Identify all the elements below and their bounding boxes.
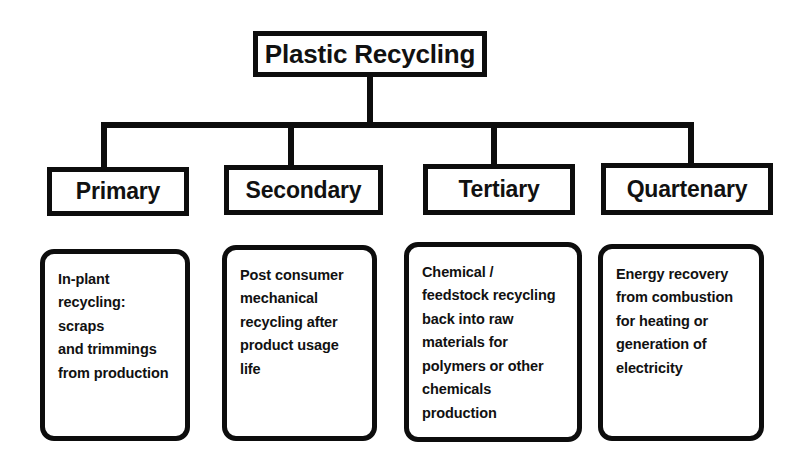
category-box-secondary: Secondary <box>224 165 383 215</box>
connector-drop-secondary <box>288 122 294 169</box>
description-box-secondary: Post consumer mechanical recycling after… <box>222 245 377 441</box>
description-box-tertiary: Chemical / feedstock recycling back into… <box>404 242 582 442</box>
description-text-tertiary: Chemical / feedstock recycling back into… <box>422 261 565 425</box>
category-box-quartenary: Quartenary <box>601 163 773 215</box>
description-box-quartenary: Energy recovery from combustion for heat… <box>598 244 764 441</box>
connector-drop-tertiary <box>491 122 497 169</box>
plastic-recycling-diagram: Plastic Recycling Primary Secondary Tert… <box>0 0 805 469</box>
category-label-secondary: Secondary <box>246 179 362 202</box>
category-box-primary: Primary <box>47 167 189 216</box>
connector-root-stem <box>367 77 373 125</box>
description-text-quartenary: Energy recovery from combustion for heat… <box>616 263 747 380</box>
connector-drop-quartenary <box>688 122 694 169</box>
description-box-primary: In-plant recycling: scraps and trimmings… <box>40 249 190 441</box>
category-box-tertiary: Tertiary <box>423 164 575 215</box>
category-label-primary: Primary <box>76 180 160 203</box>
category-label-quartenary: Quartenary <box>627 178 748 201</box>
description-text-primary: In-plant recycling: scraps and trimmings… <box>58 268 173 385</box>
description-text-secondary: Post consumer mechanical recycling after… <box>240 264 360 381</box>
page-title: Plastic Recycling <box>265 41 475 67</box>
root-node-plastic-recycling: Plastic Recycling <box>253 31 487 77</box>
category-label-tertiary: Tertiary <box>458 178 539 201</box>
connector-drop-primary <box>101 122 107 169</box>
connector-horizontal-bus <box>101 122 694 128</box>
